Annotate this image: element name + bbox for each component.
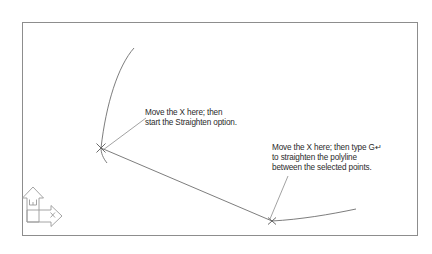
annotation-1-line-2: start the Straighten option. — [145, 118, 237, 128]
polyline-upper-curve — [101, 48, 134, 148]
annotation-1-line-1: Move the X here; then — [145, 108, 237, 118]
cad-drawing-canvas: Move the X here; then start the Straight… — [0, 0, 432, 254]
annotation-straighten-end: Move the X here; then type G↵ to straigh… — [272, 143, 382, 174]
viewport-border — [23, 23, 418, 236]
annotation-2-line-2: to straighten the polyline — [272, 153, 382, 163]
leader-line-1 — [103, 118, 146, 150]
annotation-2-line-3: between the selected points. — [272, 163, 382, 173]
annotation-straighten-start: Move the X here; then start the Straight… — [145, 108, 237, 128]
ucs-world-coordinate-icon — [23, 187, 63, 227]
polyline-straight-segment — [101, 148, 272, 221]
polyline-right-tail — [272, 209, 356, 221]
annotation-2-line-1: Move the X here; then type G↵ — [272, 143, 382, 153]
leader-line-2 — [270, 176, 288, 219]
